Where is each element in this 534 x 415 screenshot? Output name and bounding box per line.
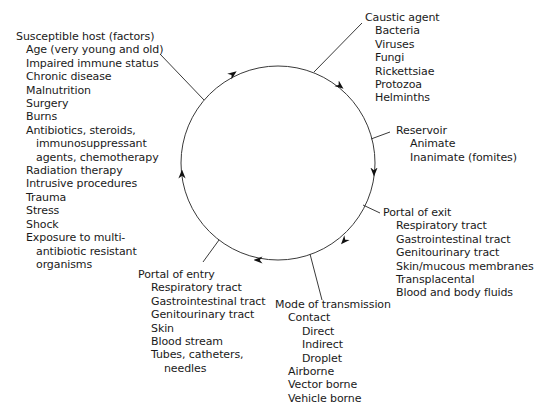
agent-item: Bacteria — [365, 24, 440, 37]
host-factor: Shock — [16, 218, 163, 231]
connector-susceptible-host — [160, 54, 204, 100]
contact-subitem: Indirect — [275, 338, 391, 351]
susceptible-host-title: Susceptible host (factors) — [16, 30, 163, 43]
host-factor: Age (very young and old) — [16, 43, 163, 56]
exit-item: Skin/mucous membranes — [383, 260, 534, 273]
portal-of-exit-block: Portal of exit Respiratory tract Gastroi… — [383, 206, 534, 300]
host-factor: Impaired immune status — [16, 57, 163, 70]
host-factor: Surgery — [16, 97, 163, 110]
arrowhead-icon — [182, 74, 374, 260]
connector-portal-of-entry — [203, 240, 219, 262]
entry-item: Gastrointestinal tract — [138, 295, 266, 308]
transmission-item: Contact — [275, 311, 391, 324]
portal-of-entry-title: Portal of entry — [138, 268, 266, 281]
mode-of-transmission-title: Mode of transmission — [275, 298, 391, 311]
reservoir-item: Inanimate (fomites) — [396, 151, 517, 164]
exit-item: Blood and body fluids — [383, 286, 534, 299]
entry-item: Respiratory tract — [138, 281, 266, 294]
entry-item: Tubes, catheters, — [138, 348, 266, 361]
host-factor: Stress — [16, 204, 163, 217]
susceptible-host-block: Susceptible host (factors) Age (very you… — [16, 30, 163, 271]
exit-item: Genitourinary tract — [383, 246, 534, 259]
connector-mode-of-transmission — [310, 254, 322, 300]
agent-item: Rickettsiae — [365, 65, 440, 78]
agent-item: Helminths — [365, 91, 440, 104]
host-factor: Intrusive procedures — [16, 177, 163, 190]
caustic-agent-title: Caustic agent — [365, 11, 440, 24]
entry-item: Genitourinary tract — [138, 308, 266, 321]
entry-item-continuation: needles — [138, 362, 266, 375]
host-factor: Exposure to multi- — [16, 231, 163, 244]
exit-item: Gastrointestinal tract — [383, 233, 534, 246]
entry-item: Skin — [138, 322, 266, 335]
transmission-item: Airborne — [275, 365, 391, 378]
host-factor: Chronic disease — [16, 70, 163, 83]
reservoir-block: Reservoir Animate Inanimate (fomites) — [396, 124, 517, 164]
host-factor: Radiation therapy — [16, 164, 163, 177]
transmission-item: Vector borne — [275, 378, 391, 391]
agent-item: Viruses — [365, 38, 440, 51]
transmission-item: Vehicle borne — [275, 392, 391, 405]
entry-item: Blood stream — [138, 335, 266, 348]
exit-item: Transplacental — [383, 273, 534, 286]
caustic-agent-block: Caustic agent Bacteria Viruses Fungi Ric… — [365, 11, 440, 105]
connector-caustic-agent — [314, 23, 362, 72]
portal-of-exit-title: Portal of exit — [383, 206, 534, 219]
host-factor-continuation: agents, chemotherapy — [16, 151, 163, 164]
host-factor: Antibiotics, steroids, — [16, 124, 163, 137]
portal-of-entry-block: Portal of entry Respiratory tract Gastro… — [138, 268, 266, 375]
host-factor-continuation: immunosuppressant — [16, 137, 163, 150]
reservoir-item: Animate — [396, 137, 517, 150]
cycle-circle — [181, 66, 375, 260]
reservoir-title: Reservoir — [396, 124, 517, 137]
host-factor: Burns — [16, 110, 163, 123]
host-factor: Malnutrition — [16, 84, 163, 97]
contact-subitem: Droplet — [275, 352, 391, 365]
host-factor-continuation: antibiotic resistant — [16, 245, 163, 258]
exit-item: Respiratory tract — [383, 219, 534, 232]
connector-portal-of-exit — [363, 205, 380, 213]
agent-item: Protozoa — [365, 78, 440, 91]
mode-of-transmission-block: Mode of transmission Contact Direct Indi… — [275, 298, 391, 405]
connector-reservoir — [371, 132, 390, 139]
contact-subitem: Direct — [275, 325, 391, 338]
agent-item: Fungi — [365, 51, 440, 64]
host-factor: Trauma — [16, 191, 163, 204]
